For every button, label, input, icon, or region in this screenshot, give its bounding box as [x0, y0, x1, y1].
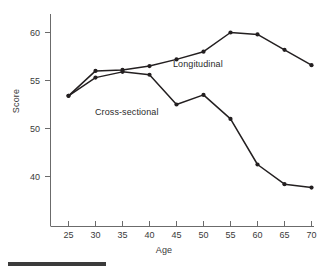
- data-point-marker: [201, 50, 205, 54]
- data-point-marker: [93, 69, 97, 73]
- data-point-marker: [120, 70, 124, 74]
- x-axis-ticks: [69, 221, 312, 227]
- y-axis-ticks: [45, 33, 51, 177]
- data-point-marker: [282, 182, 286, 186]
- data-point-marker: [201, 93, 205, 97]
- y-tick-label: 50: [30, 124, 40, 134]
- x-tick-label: 50: [198, 230, 208, 240]
- x-tick-label: 60: [252, 230, 262, 240]
- line-chart-figure: 60 55 50 40 25 30 35 40 45 50 55 60: [0, 0, 328, 271]
- x-tick-label: 70: [306, 230, 316, 240]
- data-point-marker: [228, 30, 232, 34]
- series-label-cross-sectional: Cross-sectional: [95, 107, 159, 117]
- data-point-marker: [66, 94, 70, 98]
- data-point-marker: [228, 117, 232, 121]
- data-point-marker: [309, 185, 313, 189]
- series-cross-sectional: [66, 70, 313, 190]
- data-point-marker: [147, 73, 151, 77]
- data-point-marker: [93, 76, 97, 80]
- data-point-marker: [309, 63, 313, 67]
- data-point-marker: [255, 32, 259, 36]
- chart-plot-area: 60 55 50 40 25 30 35 40 45 50 55 60: [0, 0, 328, 271]
- x-tick-label: 40: [144, 230, 154, 240]
- series-line: [69, 72, 312, 188]
- y-axis-title: Score: [11, 76, 21, 126]
- data-point-marker: [282, 48, 286, 52]
- footer-rule: [8, 262, 106, 266]
- x-tick-label: 45: [171, 230, 181, 240]
- x-tick-label: 25: [63, 230, 73, 240]
- x-tick-label: 35: [117, 230, 127, 240]
- y-axis-tick-labels: 60 55 50 40: [30, 28, 40, 182]
- x-axis-title: Age: [0, 245, 328, 255]
- y-tick-label: 55: [30, 76, 40, 86]
- data-point-marker: [147, 64, 151, 68]
- data-point-marker: [174, 102, 178, 106]
- series-label-longitudinal: Longitudinal: [173, 59, 223, 69]
- x-tick-label: 65: [279, 230, 289, 240]
- x-tick-label: 30: [90, 230, 100, 240]
- y-tick-label: 60: [30, 28, 40, 38]
- y-tick-label: 40: [30, 172, 40, 182]
- x-tick-label: 55: [225, 230, 235, 240]
- x-axis-tick-labels: 25 30 35 40 45 50 55 60 65 70: [63, 230, 316, 240]
- data-point-marker: [255, 162, 259, 166]
